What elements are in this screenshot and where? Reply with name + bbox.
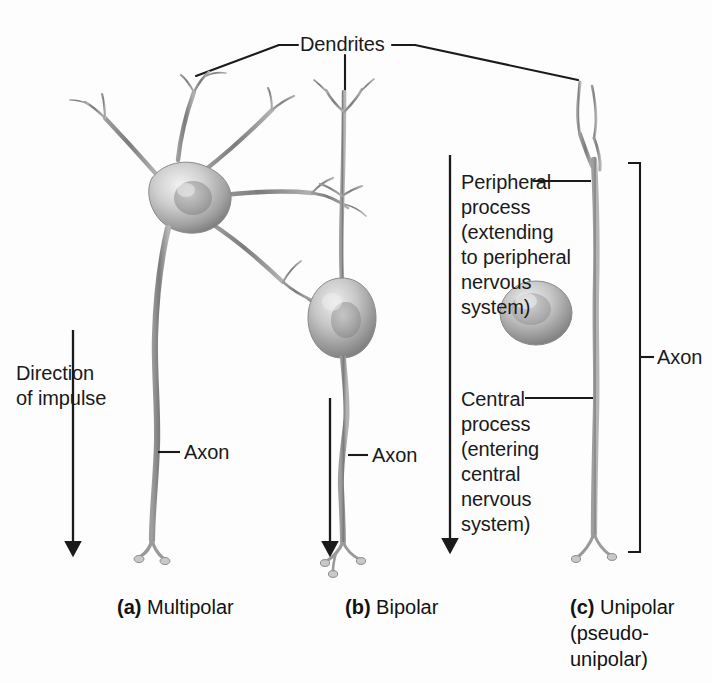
dendrites-label: Dendrites (300, 32, 385, 57)
multipolar-axon (134, 228, 170, 565)
peripheral-process-line-1: Peripheral (461, 171, 551, 193)
peripheral-process-line-6: system) (461, 296, 530, 318)
caption-unipolar: (c) Unipolar (pseudo-unipolar) (570, 594, 702, 672)
central-process-line-5: nervous (461, 488, 531, 510)
axon-label-bipolar: Axon (372, 443, 417, 468)
peripheral-process-line-3: (extending (461, 221, 553, 243)
bipolar-dendrites (314, 79, 374, 280)
peripheral-process-line-5: nervous (461, 271, 531, 293)
central-process-line-3: (entering (461, 438, 539, 460)
bipolar-axon (320, 358, 365, 577)
caption-bipolar: (b) Bipolar (345, 594, 438, 620)
unipolar-terminals (571, 534, 616, 562)
bipolar-neuron (308, 79, 376, 577)
peripheral-process-line-4: to peripheral (461, 246, 571, 268)
central-process-line-1: Central (461, 388, 525, 410)
direction-of-impulse-label: Direction of impulse (16, 361, 106, 411)
caption-multipolar: (a) Multipolar (117, 594, 234, 620)
caption-unipolar-extra: (pseudo-unipolar) (570, 622, 649, 670)
caption-bipolar-name: Bipolar (376, 596, 438, 618)
peripheral-process-line-2: process (461, 196, 530, 218)
caption-unipolar-name: Unipolar (600, 596, 674, 618)
central-process-line-4: central (461, 463, 520, 485)
central-process-line-2: process (461, 413, 530, 435)
caption-multipolar-letter: (a) (117, 596, 141, 618)
neuron-types-figure: Dendrites Direction of impulse Axon Axon… (0, 0, 712, 683)
caption-multipolar-name: Multipolar (147, 596, 234, 618)
axon-bracket-icon (628, 163, 640, 552)
axon-label-multipolar: Axon (184, 440, 229, 465)
unipolar-dendrites (578, 82, 601, 170)
peripheral-process-label: Peripheral process (extending to periphe… (461, 170, 587, 320)
caption-bipolar-letter: (b) (345, 596, 371, 618)
neuron-illustration (0, 0, 712, 683)
axon-label-unipolar: Axon (657, 345, 702, 370)
central-process-line-6: system) (461, 513, 530, 535)
caption-unipolar-letter: (c) (570, 596, 594, 618)
central-process-label: Central process (entering central nervou… (461, 387, 587, 537)
unipolar-axon-trunk (594, 160, 596, 534)
dendrites-leader-lines (196, 45, 578, 92)
